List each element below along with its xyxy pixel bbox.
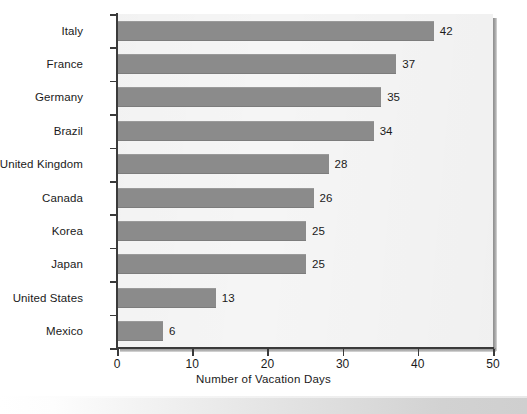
category-label: Germany — [35, 91, 83, 103]
bar-value-label: 26 — [320, 192, 333, 204]
bar[interactable] — [118, 54, 396, 74]
x-axis-title: Number of Vacation Days — [0, 373, 527, 385]
y-axis-tick — [110, 181, 117, 183]
bar-value-label: 42 — [440, 25, 453, 37]
bar-value-label: 28 — [335, 158, 348, 170]
category-label: Korea — [52, 225, 83, 237]
x-axis-tick — [192, 349, 194, 356]
bar-value-label: 25 — [312, 225, 325, 237]
x-axis-tick-label: 50 — [486, 357, 499, 371]
bar[interactable] — [118, 188, 314, 208]
category-label: France — [47, 58, 83, 70]
bar-row: Canada26 — [0, 181, 527, 214]
bar-value-label: 37 — [402, 58, 415, 70]
bar[interactable] — [118, 121, 374, 141]
x-axis-tick — [418, 349, 420, 356]
y-axis-tick — [110, 248, 117, 250]
x-axis-tick — [343, 349, 345, 356]
bar-row: United Kingdom28 — [0, 148, 527, 181]
x-axis-tick — [493, 349, 495, 356]
bar[interactable] — [118, 254, 306, 274]
x-axis-tick — [267, 349, 269, 356]
bar[interactable] — [118, 221, 306, 241]
x-axis-tick-label: 20 — [261, 357, 274, 371]
category-label: Japan — [51, 258, 83, 270]
category-label: Brazil — [54, 125, 83, 137]
bar-row: Korea25 — [0, 214, 527, 247]
bar-row: Mexico6 — [0, 315, 527, 348]
category-label: United States — [13, 292, 83, 304]
bar[interactable] — [118, 87, 381, 107]
page-bottom-strip — [0, 398, 527, 414]
x-axis-tick-label: 0 — [114, 357, 121, 371]
bar-row: France37 — [0, 47, 527, 80]
bar[interactable] — [118, 21, 434, 41]
bar-row: Germany35 — [0, 81, 527, 114]
bar-value-label: 13 — [222, 292, 235, 304]
category-label: Italy — [61, 25, 83, 37]
y-axis-tick — [110, 81, 117, 83]
y-axis-tick — [110, 14, 117, 16]
y-axis-tick — [110, 114, 117, 116]
bar-value-label: 25 — [312, 258, 325, 270]
x-axis-tick-label: 40 — [411, 357, 424, 371]
x-axis-tick-label: 10 — [186, 357, 199, 371]
bar-row: United States13 — [0, 281, 527, 314]
bar-row: Italy42 — [0, 14, 527, 47]
bar[interactable] — [118, 321, 163, 341]
category-label: Canada — [42, 192, 83, 204]
y-axis-tick — [110, 315, 117, 317]
bar-value-label: 35 — [387, 91, 400, 103]
bar-row: Brazil34 — [0, 114, 527, 147]
y-axis-tick — [110, 348, 117, 350]
y-axis-tick — [110, 281, 117, 283]
category-label: Mexico — [46, 325, 83, 337]
y-axis-tick — [110, 47, 117, 49]
chart-page: Italy42France37Germany35Brazil34United K… — [0, 0, 527, 414]
bar[interactable] — [118, 154, 329, 174]
bar-value-label: 34 — [380, 125, 393, 137]
x-axis-tick-label: 30 — [336, 357, 349, 371]
bar[interactable] — [118, 288, 216, 308]
bar-row: Japan25 — [0, 248, 527, 281]
y-axis-tick — [110, 148, 117, 150]
bar-value-label: 6 — [169, 325, 175, 337]
x-axis-tick — [117, 349, 119, 356]
category-label: United Kingdom — [0, 158, 83, 170]
y-axis-tick — [110, 214, 117, 216]
